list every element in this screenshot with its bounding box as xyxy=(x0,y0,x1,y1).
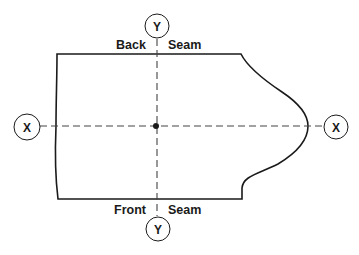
front-seam-label: Seam xyxy=(168,203,201,217)
pattern-diagram: Y Y X X Back Seam Front Seam xyxy=(0,0,359,255)
center-point xyxy=(153,123,159,129)
back-seam-label: Seam xyxy=(168,38,201,52)
x-left-marker: X xyxy=(14,114,40,140)
x-right-marker: X xyxy=(324,115,348,139)
x-left-label: X xyxy=(23,121,31,135)
back-label: Back xyxy=(116,38,146,52)
front-label: Front xyxy=(114,203,147,217)
y-bottom-label: Y xyxy=(154,223,162,237)
x-right-label: X xyxy=(332,121,340,135)
y-top-marker: Y xyxy=(145,14,169,38)
y-top-label: Y xyxy=(153,20,161,34)
pattern-outline xyxy=(55,54,308,199)
y-bottom-marker: Y xyxy=(146,217,170,241)
